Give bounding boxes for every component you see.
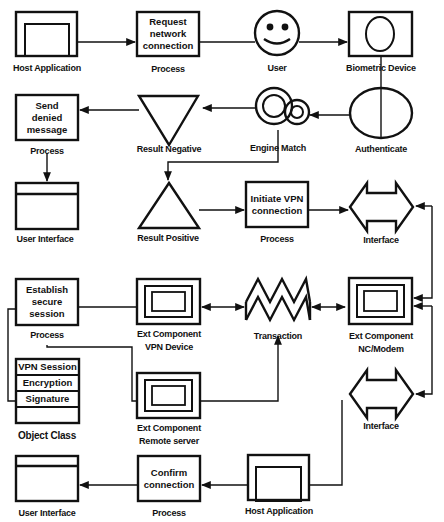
transaction-label: Transaction [254, 331, 302, 341]
text-line: Send [35, 100, 58, 112]
engine-match-icon [256, 88, 309, 124]
text-line: session [29, 308, 64, 320]
object-class-row: VPN Session [16, 361, 79, 372]
text-line: connection [143, 40, 194, 52]
vpn-device-icon [137, 279, 200, 324]
user-interface-window-icon-bottom [16, 456, 78, 501]
interface-label-bottom: Interface [363, 421, 399, 431]
host-application-label-bottom: Host Application [245, 506, 313, 516]
vpn-device-label: Ext Component VPN Device [137, 328, 201, 354]
label-line: Ext Component [349, 330, 413, 343]
user-interface-label-top: User Interface [16, 234, 73, 244]
host-application-icon-top [16, 12, 77, 56]
object-class-row: Encryption [16, 377, 79, 388]
host-application-label-top: Host Application [13, 63, 81, 73]
text-line: Initiate VPN [251, 193, 304, 205]
confirm-text: Confirm connection [138, 456, 200, 501]
object-class-row: Signature [16, 393, 79, 404]
establish-session-process-label: Process [30, 330, 64, 340]
label-line: Ext Component [137, 422, 201, 435]
text-line: connection [144, 479, 195, 491]
interface-label-top: Interface [363, 235, 399, 245]
transaction-zigzag-icon [246, 279, 310, 302]
text-line: message [27, 124, 68, 136]
establish-session-text: Establish secure session [16, 279, 78, 325]
transaction-zigzag-icon-lower [246, 297, 310, 320]
user-interface-window-icon-top [16, 183, 78, 229]
text-line: connection [252, 205, 303, 217]
text-line: Request [149, 16, 186, 28]
nc-modem-icon [349, 278, 412, 324]
user-smiley-icon [255, 11, 299, 55]
result-positive-label: Result Positive [137, 233, 199, 243]
text-line: secure [32, 296, 63, 308]
interface-double-arrow-icon-bottom [350, 370, 413, 418]
label-line: VPN Device [137, 341, 201, 354]
request-process-label: Process [151, 64, 185, 74]
label-line: NC/Modem [349, 343, 413, 356]
user-interface-label-bottom: User Interface [18, 508, 75, 518]
initiate-vpn-text: Initiate VPN connection [246, 182, 308, 227]
object-class-label: Object Class [18, 430, 76, 441]
remote-server-label: Ext Component Remote server [137, 422, 201, 448]
user-label: User [267, 63, 286, 73]
interface-double-arrow-icon-top [350, 183, 413, 231]
text-line: Confirm [151, 467, 187, 479]
host-application-icon-bottom [248, 455, 309, 501]
result-negative-triangle-icon [139, 96, 198, 145]
label-line: Ext Component [137, 328, 201, 341]
initiate-vpn-process-label: Process [260, 234, 294, 244]
result-negative-label: Result Negative [137, 144, 202, 154]
send-denied-text: Send denied message [16, 95, 78, 140]
label-line: Remote server [137, 435, 201, 448]
engine-match-label: Engine Match [250, 143, 306, 153]
send-denied-process-label: Process [30, 146, 64, 156]
request-process-text: Request network connection [137, 12, 199, 56]
biometric-device-icon [349, 12, 412, 56]
text-line: denied [32, 112, 63, 124]
authenticate-label: Authenticate [355, 144, 407, 154]
biometric-device-label: Biometric Device [346, 63, 416, 73]
remote-server-icon [137, 373, 200, 418]
confirm-process-label: Process [152, 508, 186, 518]
result-positive-triangle-icon [139, 183, 199, 228]
text-line: network [150, 28, 186, 40]
nc-modem-label: Ext Component NC/Modem [349, 330, 413, 356]
flowchart-canvas [0, 0, 444, 522]
text-line: Establish [26, 284, 68, 296]
